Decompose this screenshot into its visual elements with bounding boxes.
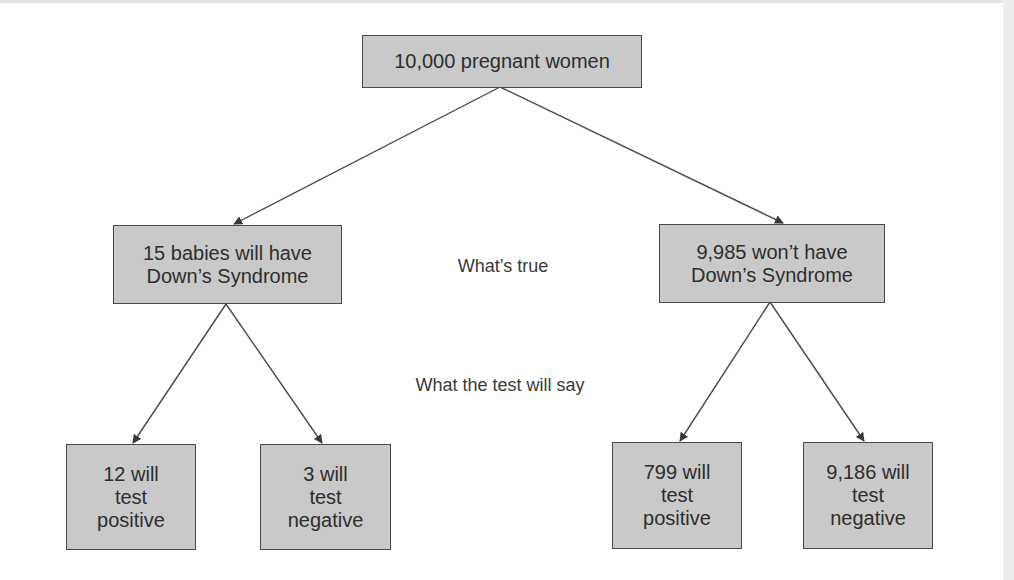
edge-affected-to-negative [226, 304, 322, 443]
node-line: negative [288, 509, 364, 532]
node-line: positive [643, 507, 711, 530]
node-line: 12 will [103, 463, 159, 486]
node-line: test [309, 486, 341, 509]
edge-unaffected-to-negative [770, 302, 864, 441]
node-line: test [115, 486, 147, 509]
whats-true-label: What’s true [458, 256, 549, 277]
root-node-text: 10,000 pregnant women [394, 50, 610, 73]
unaffected-node-line-2: Down’s Syndrome [691, 264, 853, 287]
node-line: negative [830, 507, 906, 530]
edge-affected-to-positive [133, 304, 226, 443]
true-negative-node: 9,186 will test negative [803, 442, 933, 549]
true-positive-node: 12 will test positive [66, 444, 196, 550]
affected-node: 15 babies will have Down’s Syndrome [113, 225, 342, 304]
affected-node-line-1: 15 babies will have [143, 242, 312, 265]
edge-root-to-affected [234, 87, 500, 224]
node-line: test [852, 484, 884, 507]
unaffected-node-line-1: 9,985 won’t have [696, 241, 847, 264]
root-node: 10,000 pregnant women [362, 35, 642, 88]
node-line: 3 will [303, 463, 347, 486]
unaffected-node: 9,985 won’t have Down’s Syndrome [659, 224, 885, 303]
affected-node-line-2: Down’s Syndrome [147, 265, 309, 288]
test-result-label: What the test will say [415, 375, 584, 396]
node-line: 799 will [644, 461, 711, 484]
node-line: positive [97, 509, 165, 532]
false-positive-node: 799 will test positive [612, 442, 742, 549]
false-negative-node: 3 will test negative [260, 444, 391, 550]
node-line: test [661, 484, 693, 507]
edge-unaffected-to-positive [680, 302, 770, 441]
node-line: 9,186 will [826, 461, 909, 484]
edge-root-to-unaffected [500, 87, 783, 223]
